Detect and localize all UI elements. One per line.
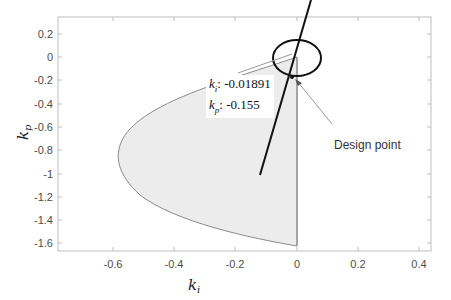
x-tick-labels: -0.6 -0.4 -0.2 0 0.2 0.4 [104, 258, 427, 270]
svg-text:-0.2: -0.2 [34, 74, 53, 86]
svg-text:-1.6: -1.6 [34, 237, 53, 249]
svg-text:-1: -1 [43, 168, 53, 180]
y-tick-labels: 0.2 0 -0.2 -0.4 -0.6 -0.8 -1 -1.2 -1.4 -… [34, 28, 53, 249]
x-axis-label: ki [188, 276, 200, 295]
svg-text:-0.4: -0.4 [34, 98, 53, 110]
svg-text:-1.4: -1.4 [34, 214, 53, 226]
svg-text:0.2: 0.2 [38, 28, 53, 40]
svg-text:0.2: 0.2 [350, 258, 365, 270]
design-point-label: Design point [334, 138, 401, 152]
svg-text:0.4: 0.4 [411, 258, 426, 270]
svg-text:0: 0 [47, 51, 53, 63]
svg-text:-0.2: -0.2 [226, 258, 245, 270]
svg-text:-1.2: -1.2 [34, 191, 53, 203]
datatip-kp: kp: -0.155 [209, 97, 271, 118]
svg-text:-0.6: -0.6 [34, 121, 53, 133]
svg-text:-0.4: -0.4 [165, 258, 184, 270]
svg-text:0: 0 [294, 258, 300, 270]
svg-text:-0.8: -0.8 [34, 144, 53, 156]
design-point-marker[interactable] [290, 75, 294, 79]
y-axis-label: kp [14, 124, 33, 140]
datatip[interactable]: ki: -0.01891 kp: -0.155 [206, 75, 274, 118]
datatip-ki: ki: -0.01891 [209, 76, 271, 97]
svg-text:-0.6: -0.6 [104, 258, 123, 270]
